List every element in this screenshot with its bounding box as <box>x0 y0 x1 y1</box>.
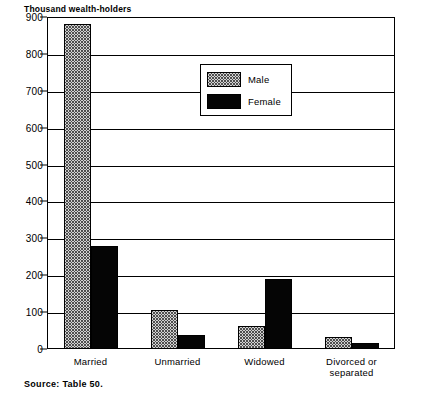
category-label-divorced-or-separated: Divorced or separated <box>308 356 395 378</box>
bar-female-widowed <box>265 279 292 349</box>
gridline <box>48 239 394 240</box>
category-label-married: Married <box>47 356 134 367</box>
y-axis-tick-mark <box>40 275 47 276</box>
bar-male-unmarried <box>151 310 178 349</box>
y-axis-tick-label: 600 <box>9 122 43 133</box>
legend-label-female: Female <box>248 96 281 107</box>
y-axis-tick-label: 900 <box>9 12 43 23</box>
bar-male-widowed <box>238 326 265 349</box>
y-axis-tick-label: 100 <box>9 307 43 318</box>
bar-male-divorced-or-separated <box>325 337 352 349</box>
gridline <box>48 202 394 203</box>
bar-chart-figure: Thousand wealth-holders 9008007006005004… <box>0 0 422 395</box>
legend-item-female: Female <box>207 92 285 111</box>
y-axis-tick-mark <box>40 312 47 313</box>
legend-item-male: Male <box>207 70 285 89</box>
y-axis-tick-label: 200 <box>9 270 43 281</box>
y-axis-tick-label: 300 <box>9 233 43 244</box>
y-axis-tick-label: 700 <box>9 85 43 96</box>
bar-female-unmarried <box>178 335 205 349</box>
y-axis-tick-mark <box>40 238 47 239</box>
y-axis-tick-mark <box>40 164 47 165</box>
bar-male-married <box>64 24 91 349</box>
y-axis-tick-label: 0 <box>9 344 43 355</box>
legend: Male Female <box>200 64 292 116</box>
y-axis-tick-label: 800 <box>9 48 43 59</box>
gridline <box>48 55 394 56</box>
y-axis-tick-label: 500 <box>9 159 43 170</box>
bar-female-married <box>91 246 118 349</box>
y-axis-tick-label: 400 <box>9 196 43 207</box>
source-note: Source: Table 50. <box>24 379 103 389</box>
legend-swatch-female-icon <box>207 94 241 109</box>
y-axis-tick-mark <box>40 17 47 18</box>
category-label-unmarried: Unmarried <box>134 356 221 367</box>
bar-female-divorced-or-separated <box>352 343 379 349</box>
category-label-widowed: Widowed <box>221 356 308 367</box>
legend-label-male: Male <box>248 74 269 85</box>
gridline <box>48 166 394 167</box>
y-axis-tick-mark <box>40 90 47 91</box>
y-axis-tick-mark <box>40 349 47 350</box>
y-axis-tick-mark <box>40 127 47 128</box>
gridline <box>48 129 394 130</box>
legend-swatch-male-icon <box>207 72 241 87</box>
y-axis-tick-mark <box>40 53 47 54</box>
y-axis-tick-mark <box>40 201 47 202</box>
